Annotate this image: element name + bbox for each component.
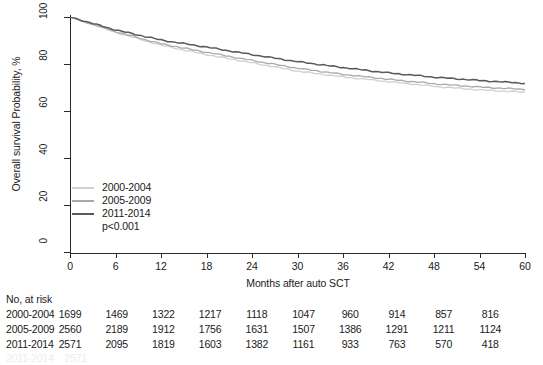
- cropped-next-row: 2011-2014 2571: [6, 352, 306, 364]
- risk-cell: 418: [470, 337, 510, 352]
- risk-row-label: 2005-2009: [6, 322, 54, 337]
- risk-cell: 1047: [284, 307, 324, 322]
- y-tick-label: 20: [39, 191, 49, 219]
- risk-cell: 914: [377, 307, 417, 322]
- risk-cell: 1211: [424, 322, 464, 337]
- x-tick-label: 60: [510, 260, 540, 272]
- x-tick-label: 12: [146, 260, 176, 272]
- legend-swatch-icon: [72, 200, 94, 202]
- risk-cell: 1382: [237, 337, 277, 352]
- x-tick-label: 30: [283, 260, 313, 272]
- x-tick: [252, 253, 253, 258]
- risk-cell: 2095: [97, 337, 137, 352]
- risk-table-row: 2005-20092560218919121756163115071386129…: [6, 322, 543, 337]
- risk-cell: 1507: [284, 322, 324, 337]
- risk-table-rows: 2000-20041699146913221217111810479609148…: [6, 307, 543, 352]
- risk-cell: 1291: [377, 322, 417, 337]
- y-tick-label: 80: [39, 50, 49, 78]
- risk-cell: 1469: [97, 307, 137, 322]
- x-tick: [161, 253, 162, 258]
- risk-cell: 1161: [284, 337, 324, 352]
- x-tick-label: 0: [55, 260, 85, 272]
- x-tick-label: 18: [192, 260, 222, 272]
- x-axis-title: Months after auto SCT: [70, 277, 526, 289]
- risk-row-label: 2000-2004: [6, 307, 54, 322]
- risk-cell: 1819: [143, 337, 183, 352]
- risk-cell: 763: [377, 337, 417, 352]
- x-tick-label: 48: [419, 260, 449, 272]
- risk-table-row: 2000-20041699146913221217111810479609148…: [6, 307, 543, 322]
- x-tick-label: 42: [374, 260, 404, 272]
- x-tick: [207, 253, 208, 258]
- x-tick: [70, 253, 71, 258]
- risk-cell: 960: [330, 307, 370, 322]
- y-tick-label: 60: [39, 97, 49, 125]
- pvalue-annotation: p<0.001: [102, 220, 140, 233]
- risk-cell: 2560: [50, 322, 90, 337]
- risk-cell: 1912: [143, 322, 183, 337]
- x-tick: [298, 253, 299, 258]
- y-tick-label: 100: [39, 3, 49, 31]
- x-tick-label: 54: [465, 260, 495, 272]
- risk-cell: 1386: [330, 322, 370, 337]
- risk-row-label: 2011-2014: [6, 337, 54, 352]
- x-tick: [116, 253, 117, 258]
- risk-cell: 857: [424, 307, 464, 322]
- risk-cell: 1699: [50, 307, 90, 322]
- survival-curve-2011-2014: [70, 17, 525, 84]
- cropped-text: 2011-2014 2571: [6, 352, 306, 364]
- x-tick: [434, 253, 435, 258]
- x-tick-label: 6: [101, 260, 131, 272]
- risk-cell: 1322: [143, 307, 183, 322]
- risk-cell: 2571: [50, 337, 90, 352]
- risk-table-row: 2011-20142571209518191603138211619337635…: [6, 337, 543, 352]
- legend-swatch-icon: [72, 187, 94, 189]
- risk-cell: 1756: [190, 322, 230, 337]
- risk-table-title: No, at risk: [6, 292, 543, 307]
- risk-cell: 1217: [190, 307, 230, 322]
- x-tick-label: 24: [237, 260, 267, 272]
- x-tick: [343, 253, 344, 258]
- numbers-at-risk-table: No, at risk 2000-20041699146913221217111…: [6, 292, 543, 352]
- risk-cell: 1603: [190, 337, 230, 352]
- x-tick-label: 36: [328, 260, 358, 272]
- survival-chart-figure: Overall survival Probability, % 02040608…: [0, 0, 543, 365]
- risk-cell: 1631: [237, 322, 277, 337]
- legend-label: 2011-2014: [102, 207, 151, 220]
- risk-cell: 816: [470, 307, 510, 322]
- y-axis-title: Overall survival Probability, %: [10, 24, 22, 224]
- y-tick-label: 0: [39, 238, 49, 266]
- legend-swatch-icon: [72, 213, 94, 215]
- legend-label: 2000-2004: [102, 181, 151, 194]
- legend-label: 2005-2009: [102, 194, 151, 207]
- risk-cell: 933: [330, 337, 370, 352]
- risk-cell: 1124: [470, 322, 510, 337]
- risk-cell: 1118: [237, 307, 277, 322]
- x-tick: [525, 253, 526, 258]
- risk-cell: 570: [424, 337, 464, 352]
- y-tick-label: 40: [39, 144, 49, 172]
- survival-curve-2000-2004: [70, 17, 525, 92]
- risk-cell: 2189: [97, 322, 137, 337]
- x-tick: [480, 253, 481, 258]
- x-tick: [389, 253, 390, 258]
